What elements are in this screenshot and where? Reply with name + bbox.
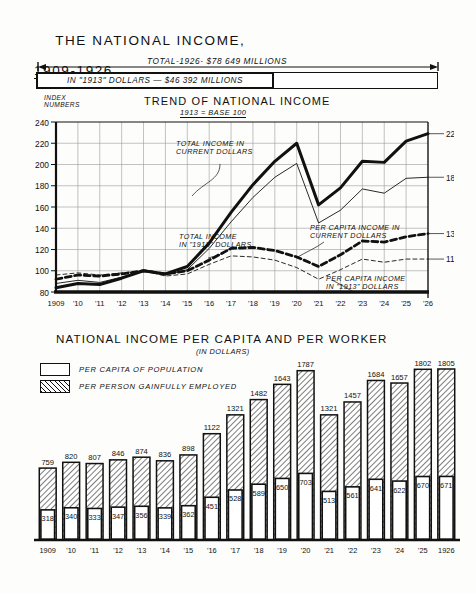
bar-value-per-capita: 650	[276, 483, 288, 492]
annotation-total-1913: TOTAL INCOME IN "1913" DOLLARS	[179, 233, 252, 250]
bar-value-per-capita: 356	[135, 511, 147, 520]
annotation-total-current: TOTAL INCOME IN CURRENT DOLLARS	[176, 140, 253, 157]
x-tick-label: '25	[401, 299, 411, 308]
bar-category-label: 1926	[438, 546, 454, 555]
bar-value-per-worker: 1787	[297, 360, 314, 369]
y-tick-label: 100	[35, 266, 49, 276]
x-tick-label: '10	[73, 299, 83, 308]
x-tick-label: '23	[357, 299, 367, 308]
bar-group: 836339	[157, 450, 174, 540]
series-end-label: 188	[446, 174, 454, 183]
x-tick-label: '22	[336, 299, 346, 308]
bar-value-per-capita: 451	[206, 502, 218, 511]
bar-category-label: '21	[324, 546, 334, 555]
x-tick-label: '16	[204, 299, 214, 308]
bar-value-per-capita: 362	[182, 510, 194, 519]
y-tick-label: 140	[35, 224, 49, 234]
bar-group: 820340	[63, 452, 80, 540]
bar-group: 898362	[180, 444, 197, 540]
bar-value-per-capita: 671	[440, 481, 452, 490]
x-tick-label: '15	[182, 299, 192, 308]
bar-value-per-worker: 836	[159, 450, 172, 459]
annotation-leader-line	[192, 164, 220, 196]
bar-value-per-worker: 1643	[274, 374, 291, 383]
bar-value-per-capita: 347	[112, 512, 124, 521]
bar-group: 1321513	[321, 404, 338, 540]
total-income-bars: TOTAL-1926- $78 649 MILLIONS IN "1913" D…	[36, 57, 440, 89]
x-tick-label: '21	[314, 299, 324, 308]
bar-group: 1787703	[297, 360, 314, 540]
trend-line-chart: TREND OF NATIONAL INCOME 1913 = BASE 100…	[24, 96, 454, 321]
bar-group: 1802670	[414, 359, 431, 540]
bar-category-label: '22	[348, 546, 358, 555]
bar-value-per-capita: 513	[323, 496, 335, 505]
x-tick-label: '14	[160, 299, 170, 308]
y-tick-label: 160	[35, 203, 49, 213]
bar-value-per-worker: 807	[88, 453, 101, 462]
bar-group: 1657622	[391, 373, 408, 540]
series-end-label: 229	[446, 130, 454, 139]
bar-category-label: 1909	[39, 546, 55, 555]
x-tick-label: '20	[292, 299, 302, 308]
bar-category-label: '24	[395, 546, 405, 555]
bar-category-label: '23	[371, 546, 381, 555]
bar-value-per-capita: 641	[370, 484, 382, 493]
per-capita-bar-chart: NATIONAL INCOME PER CAPITA AND PER WORKE…	[18, 332, 464, 582]
bar-category-label: '10	[66, 546, 76, 555]
bar-value-per-worker: 1805	[438, 359, 455, 368]
bar-value-per-worker: 846	[112, 449, 125, 458]
bar-value-per-worker: 1684	[367, 370, 384, 379]
bar-value-per-capita: 339	[159, 512, 171, 521]
bar-value-per-capita: 589	[253, 489, 265, 498]
bar-category-label: '15	[184, 546, 194, 555]
x-tick-label: '19	[270, 299, 280, 308]
bar-category-label: '13	[137, 546, 147, 555]
y-tick-label: 180	[35, 181, 49, 191]
bar-category-label: '17	[230, 546, 240, 555]
bar-value-per-worker: 1321	[227, 404, 244, 413]
bar-category-label: '14	[160, 546, 170, 555]
bar-group: 759318	[39, 458, 56, 540]
x-tick-label: '17	[226, 299, 236, 308]
x-tick-label: '12	[117, 299, 127, 308]
y-tick-label: 220	[35, 139, 49, 149]
x-tick-label: '18	[248, 299, 258, 308]
y-tick-label: 200	[35, 160, 49, 170]
bar-value-per-capita: 333	[88, 513, 100, 522]
y-tick-label: 80	[40, 288, 50, 298]
bar-value-per-worker: 874	[135, 447, 148, 456]
bar-category-label: '16	[207, 546, 217, 555]
bar-group: 846347	[110, 449, 127, 540]
bar-value-per-capita: 703	[299, 478, 311, 487]
bar-value-per-capita: 622	[393, 486, 405, 495]
bar-category-label: '18	[254, 546, 264, 555]
series-end-label: 135	[446, 230, 454, 239]
bar-group: 807333	[86, 453, 103, 540]
bar-value-per-capita: 318	[42, 514, 54, 523]
bar-value-per-capita: 670	[417, 481, 429, 490]
bar-group: 1482589	[250, 389, 267, 540]
bar-category-label: '12	[113, 546, 123, 555]
series-end-label: 111	[446, 255, 454, 264]
bar-value-per-worker: 1802	[414, 359, 431, 368]
x-tick-label: '13	[139, 299, 149, 308]
infographic-page: THE NATIONAL INCOME, 1909-1926 TOTAL-192…	[0, 0, 476, 593]
x-tick-label: '26	[423, 299, 433, 308]
deflated-income-bar: IN "1913" DOLLARS — $46 392 MILLIONS	[36, 72, 274, 89]
bar-chart-canvas: 7593181909820340'10807333'11846347'12874…	[18, 332, 464, 582]
bar-value-per-worker: 1657	[391, 373, 408, 382]
bar-value-per-capita: 561	[346, 491, 358, 500]
bar-value-per-capita: 528	[229, 494, 241, 503]
bar-group: 1457561	[344, 391, 361, 540]
bar-value-per-capita: 340	[65, 512, 77, 521]
bar-group: 1684641	[367, 370, 384, 540]
annotation-percap-current: PER CAPITA INCOME IN CURRENT DOLLARS	[310, 224, 400, 241]
total-income-label: TOTAL-1926- $78 649 MILLIONS	[144, 56, 290, 66]
bar-category-label: '11	[90, 546, 99, 555]
annotation-leader-line	[296, 242, 324, 258]
bar-group: 1122451	[203, 423, 220, 540]
y-tick-label: 120	[35, 245, 49, 255]
bar-value-per-worker: 1122	[204, 423, 220, 432]
bar-group: 874356	[133, 447, 150, 540]
bar-value-per-worker: 1457	[344, 391, 361, 400]
